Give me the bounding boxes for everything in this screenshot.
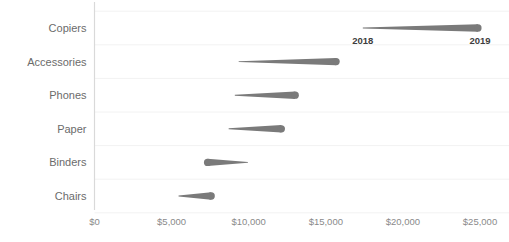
arrow-mark-phones (235, 92, 299, 99)
chart-canvas (0, 0, 509, 242)
category-label-chairs: Chairs (3, 190, 87, 202)
category-label-copiers: Copiers (3, 22, 87, 34)
x-tick-label-5: $25,000 (463, 216, 497, 227)
x-tick-label-2: $10,000 (232, 216, 266, 227)
slope-arrow-chart: CopiersAccessoriesPhonesPaperBindersChai… (0, 0, 509, 242)
year-annotation-2018: 2018 (352, 35, 373, 46)
arrow-mark-accessories (239, 58, 340, 65)
x-tick-label-3: $15,000 (309, 216, 343, 227)
category-label-accessories: Accessories (3, 56, 87, 68)
arrow-mark-paper (229, 125, 285, 132)
arrow-mark-binders (204, 159, 248, 166)
x-tick-label-4: $20,000 (386, 216, 420, 227)
category-label-phones: Phones (3, 89, 87, 101)
x-tick-label-1: $5,000 (157, 216, 186, 227)
category-label-paper: Paper (3, 123, 87, 135)
category-label-binders: Binders (3, 156, 87, 168)
x-tick-label-0: $0 (89, 216, 100, 227)
year-annotation-2019: 2019 (469, 35, 490, 46)
arrow-mark-chairs (179, 192, 215, 199)
arrow-mark-copiers (363, 24, 482, 31)
gridlines (95, 11, 509, 213)
plot-area: CopiersAccessoriesPhonesPaperBindersChai… (0, 0, 509, 242)
